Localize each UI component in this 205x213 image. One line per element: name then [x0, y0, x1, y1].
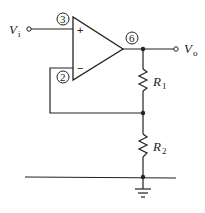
input-terminal-circle — [27, 27, 31, 31]
r2-label: R — [152, 139, 161, 154]
r1-label-sub: 1 — [162, 81, 167, 91]
r1-label: R — [152, 74, 161, 89]
output-terminal-circle — [174, 47, 178, 51]
circuit-diagram: V i + − 3 2 6 V o R 1 R 2 — [0, 0, 205, 213]
r2-label-sub: 2 — [162, 146, 167, 156]
resistor-r2: R 2 — [139, 113, 167, 177]
input-label-sub: i — [18, 29, 21, 39]
ground-icon — [135, 177, 151, 197]
noninverting-sign: + — [77, 24, 83, 36]
ground-rail — [25, 177, 176, 178]
resistor-r1: R 1 — [139, 49, 167, 113]
pin-3-label: 3 — [60, 13, 66, 25]
pin-6-label: 6 — [129, 32, 135, 44]
pin-2-label: 2 — [60, 71, 66, 83]
inverting-sign: − — [77, 62, 83, 74]
output-label-sub: o — [193, 48, 198, 58]
r1-zigzag — [139, 69, 147, 91]
opamp: + − 3 2 6 — [57, 13, 138, 83]
r2-zigzag — [139, 134, 147, 157]
